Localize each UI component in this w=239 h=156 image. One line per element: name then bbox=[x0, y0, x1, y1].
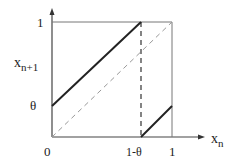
x-axis-label: xn bbox=[211, 131, 224, 149]
identity-diagonal bbox=[52, 22, 172, 137]
x-tick-one-minus-theta: 1-θ bbox=[126, 145, 142, 156]
y-axis-arrow-icon bbox=[50, 8, 55, 15]
y-axis-label: xn+1 bbox=[14, 55, 38, 73]
x-tick-one: 1 bbox=[169, 144, 176, 156]
map-diagram: 1 xn+1 θ 0 1-θ 1 xn bbox=[0, 0, 239, 156]
origin-label: 0 bbox=[44, 144, 51, 156]
x-axis-arrow-icon bbox=[198, 135, 205, 140]
y-tick-theta: θ bbox=[30, 98, 36, 113]
lower-map-segment bbox=[141, 106, 172, 137]
upper-map-segment bbox=[52, 22, 141, 106]
y-tick-one: 1 bbox=[37, 15, 44, 30]
